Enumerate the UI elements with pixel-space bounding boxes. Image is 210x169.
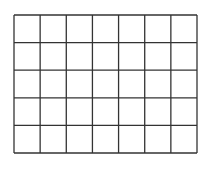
grid-diagram [0, 0, 210, 169]
grid-background [14, 15, 197, 153]
